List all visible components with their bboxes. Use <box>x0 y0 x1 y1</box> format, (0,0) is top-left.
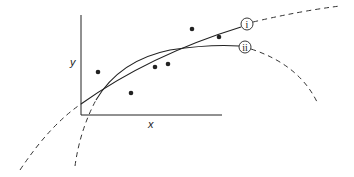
data-point <box>96 70 101 75</box>
curve-ii-extrapolation-right <box>251 49 318 104</box>
data-point <box>153 65 158 70</box>
data-point <box>129 91 134 96</box>
curve-i-extrapolation-right <box>253 6 340 22</box>
data-point <box>190 27 195 32</box>
data-point <box>217 35 222 40</box>
x-axis-label: x <box>147 118 154 130</box>
curve-fitting-diagram: y x i ii <box>0 0 354 177</box>
data-points <box>96 27 222 96</box>
y-axis-label: y <box>69 56 77 68</box>
curve-i <box>81 27 241 104</box>
curve-ii-extrapolation-left <box>75 100 96 166</box>
curve-ii-label: ii <box>242 42 248 53</box>
curve-ii <box>96 46 239 101</box>
curve-i-extrapolation-left <box>20 104 81 170</box>
data-point <box>166 62 171 67</box>
curve-i-label: i <box>246 19 249 30</box>
